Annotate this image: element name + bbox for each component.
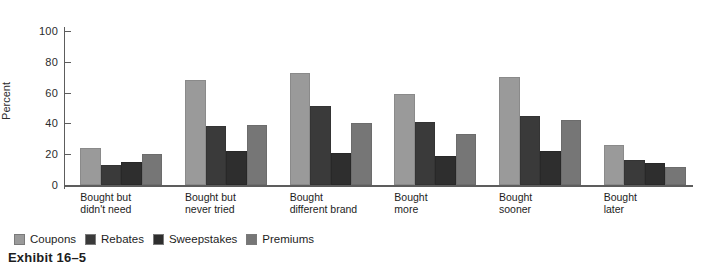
y-tick-label: 0 (20, 179, 58, 191)
bar (604, 145, 625, 185)
y-tick-label: 60 (20, 87, 58, 99)
x-axis-label: Bought but never tried (185, 192, 236, 215)
x-axis-label: Bought sooner (499, 192, 532, 215)
legend-item: Coupons (14, 233, 76, 245)
bar (226, 151, 247, 185)
y-tick-label: 40 (20, 117, 58, 129)
y-tick-label: 100 (20, 25, 58, 37)
bar-group (185, 31, 267, 185)
bar (185, 80, 206, 185)
bar-group (290, 31, 372, 185)
chart-figure: Percent 020406080100 Bought but didn't n… (0, 0, 707, 268)
x-axis-label: Bought different brand (290, 192, 358, 215)
bar (331, 153, 352, 185)
exhibit-caption: Exhibit 16–5 (8, 250, 86, 265)
bar (499, 77, 520, 185)
bar (142, 154, 163, 185)
bar (394, 94, 415, 185)
bar (310, 106, 331, 185)
y-tick-label: 80 (20, 56, 58, 68)
x-axis-label: Bought later (604, 192, 637, 215)
legend-swatch-icon (246, 234, 257, 245)
bar (645, 163, 666, 185)
bar-group (499, 31, 581, 185)
bar-group (80, 31, 162, 185)
bar (624, 160, 645, 185)
x-axis-label: Bought but didn't need (80, 192, 131, 215)
y-tick-label: 20 (20, 148, 58, 160)
bar (80, 148, 101, 185)
y-tick-mark (65, 185, 71, 186)
legend-swatch-icon (153, 234, 164, 245)
bar (435, 156, 456, 185)
bar (247, 125, 268, 185)
legend-item: Sweepstakes (153, 233, 237, 245)
legend-label: Sweepstakes (169, 233, 237, 245)
legend-item: Rebates (85, 233, 144, 245)
plot-area (65, 31, 693, 185)
bar-group (604, 31, 686, 185)
legend-label: Premiums (262, 233, 314, 245)
chart-legend: CouponsRebatesSweepstakesPremiums (14, 233, 314, 245)
bar (415, 122, 436, 185)
bar (121, 162, 142, 185)
bar (665, 167, 686, 185)
bar (351, 123, 372, 185)
bar (456, 134, 477, 185)
bar (520, 116, 541, 185)
legend-item: Premiums (246, 233, 314, 245)
y-axis-title: Percent (0, 82, 12, 120)
legend-label: Coupons (30, 233, 76, 245)
x-axis-line (64, 185, 693, 187)
bar (290, 73, 311, 185)
legend-label: Rebates (101, 233, 144, 245)
bar (206, 126, 227, 185)
bar-group (394, 31, 476, 185)
bar (561, 120, 582, 185)
x-axis-label: Bought more (394, 192, 427, 215)
legend-swatch-icon (14, 234, 25, 245)
legend-swatch-icon (85, 234, 96, 245)
bar (540, 151, 561, 185)
bar (101, 165, 122, 185)
